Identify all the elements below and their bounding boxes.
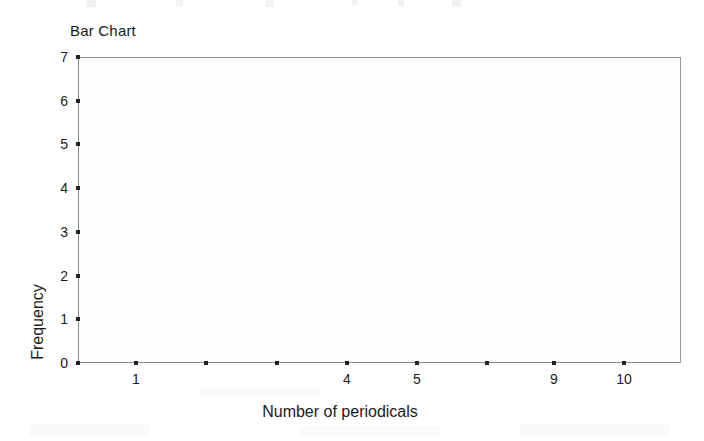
x-tick-label: 1 xyxy=(132,371,140,387)
y-tick-mark xyxy=(76,361,80,365)
x-tick-mark xyxy=(622,361,626,365)
y-tick-mark xyxy=(76,55,80,59)
y-tick-label: 1 xyxy=(46,311,68,327)
y-tick-mark xyxy=(76,274,80,278)
y-tick-mark xyxy=(76,142,80,146)
x-tick-mark xyxy=(204,361,208,365)
y-tick-label: 7 xyxy=(46,49,68,65)
y-tick-label: 6 xyxy=(46,93,68,109)
y-axis-title: Frequency xyxy=(29,284,47,360)
y-tick-label: 2 xyxy=(46,268,68,284)
y-tick-mark xyxy=(76,186,80,190)
x-tick-label: 9 xyxy=(550,371,558,387)
x-tick-label: 5 xyxy=(413,371,421,387)
y-tick-mark xyxy=(76,317,80,321)
x-tick-mark xyxy=(415,361,419,365)
y-tick-label: 5 xyxy=(46,136,68,152)
y-tick-mark xyxy=(76,230,80,234)
x-tick-label: 10 xyxy=(616,371,632,387)
scanned-chart-page: Bar Chart 76543210145910 Frequency Numbe… xyxy=(0,0,704,441)
x-tick-mark xyxy=(485,361,489,365)
y-tick-label: 3 xyxy=(46,224,68,240)
x-tick-mark xyxy=(552,361,556,365)
x-axis-title: Number of periodicals xyxy=(262,403,418,421)
y-tick-mark xyxy=(76,99,80,103)
y-tick-label: 4 xyxy=(46,180,68,196)
x-tick-label: 4 xyxy=(343,371,351,387)
y-tick-label: 0 xyxy=(46,355,68,371)
x-tick-mark xyxy=(134,361,138,365)
x-tick-mark xyxy=(345,361,349,365)
x-tick-mark xyxy=(275,361,279,365)
axis-layer: 76543210145910 xyxy=(0,0,704,441)
